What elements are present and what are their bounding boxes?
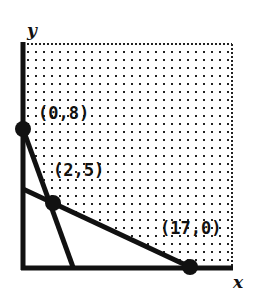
- point-label-0-8: (0,8): [38, 103, 89, 123]
- y-axis-label: y: [26, 20, 38, 40]
- vertex-point-0-8: [15, 121, 31, 137]
- vertex-point-2-5: [45, 195, 61, 211]
- point-label-2-5: (2,5): [53, 160, 104, 180]
- x-axis-label: x: [232, 272, 244, 292]
- vertex-point-17-0: [182, 259, 198, 275]
- point-label-17-0: (17,0): [160, 218, 221, 238]
- feasible-region-diagram: (0,8) (2,5) (17,0) y x: [0, 0, 269, 297]
